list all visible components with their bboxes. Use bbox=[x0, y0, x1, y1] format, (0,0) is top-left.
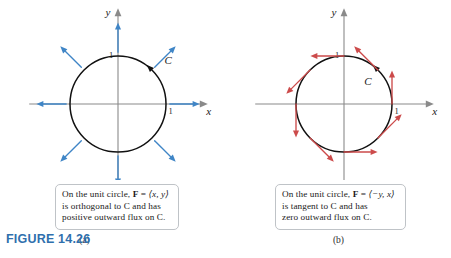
y-tick-label-1: 1 bbox=[109, 50, 113, 60]
caption-line-1: On the unit circle, F = ⟨−y, x⟩ bbox=[282, 189, 399, 201]
y-axis-label: y bbox=[105, 6, 111, 18]
x-axis-label: x bbox=[431, 105, 437, 117]
curve-label-C: C bbox=[364, 75, 372, 87]
plot-a: xy11C bbox=[0, 0, 225, 180]
y-axis-label: y bbox=[331, 6, 337, 18]
caption-line-2: is orthogonal to C and has bbox=[62, 201, 172, 213]
panel-b: xy11C On the unit circle, F = ⟨−y, x⟩ is… bbox=[226, 0, 451, 258]
figure-14-26: xy11C On the unit circle, F = ⟨x, y⟩ is … bbox=[0, 0, 451, 258]
y-axis-arrowhead bbox=[341, 8, 348, 16]
field-arrow bbox=[170, 101, 200, 107]
x-axis-label: x bbox=[205, 105, 211, 117]
caption-line-2: is tangent to C and has bbox=[282, 201, 399, 213]
caption-line-1: On the unit circle, F = ⟨x, y⟩ bbox=[62, 189, 172, 201]
caption-box-a: On the unit circle, F = ⟨x, y⟩ is orthog… bbox=[55, 184, 179, 230]
caption-line-3: zero outward flux on C. bbox=[282, 212, 399, 224]
panel-a: xy11C On the unit circle, F = ⟨x, y⟩ is … bbox=[0, 0, 225, 258]
field-arrow bbox=[155, 141, 178, 164]
figure-number-label: FIGURE 14.26 bbox=[6, 232, 90, 246]
field-arrow bbox=[58, 141, 81, 164]
field-arrow bbox=[36, 101, 66, 107]
caption-box-b: On the unit circle, F = ⟨−y, x⟩ is tange… bbox=[275, 184, 406, 230]
sub-label-b: (b) bbox=[226, 235, 451, 245]
field-arrow bbox=[58, 44, 81, 67]
field-arrow bbox=[344, 149, 378, 155]
x-tick-label-1: 1 bbox=[394, 106, 398, 116]
field-arrow bbox=[115, 22, 121, 52]
field-arrow bbox=[389, 70, 395, 104]
field-arrow bbox=[293, 104, 299, 138]
y-tick-label-1: 1 bbox=[335, 50, 339, 60]
y-axis-arrowhead bbox=[115, 8, 122, 16]
x-tick-label-1: 1 bbox=[168, 106, 172, 116]
field-arrow bbox=[115, 156, 121, 180]
caption-line-3: positive outward flux on C. bbox=[62, 212, 172, 224]
plot-b: xy11C bbox=[226, 0, 451, 180]
